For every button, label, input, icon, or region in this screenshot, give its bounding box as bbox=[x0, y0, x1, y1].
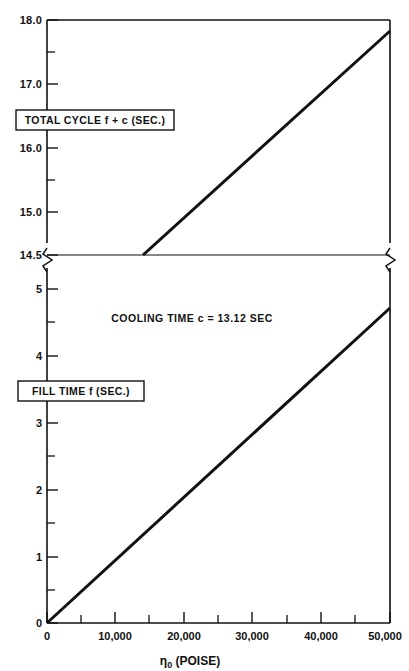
x-axis-title-eta: η bbox=[160, 654, 167, 668]
cooling-time-note: COOLING TIME c = 13.12 SEC bbox=[111, 312, 273, 324]
tick-label-17: 17.0 bbox=[20, 78, 42, 90]
tick-label-2: 2 bbox=[36, 484, 42, 496]
fill-time-axis-label: FILL TIME f (SEC.) bbox=[18, 381, 144, 401]
tick-label-1: 1 bbox=[36, 551, 42, 563]
figure-container: 18.0 17.0 16.0 15.0 14.5 TOTAL CYCLE f +… bbox=[0, 0, 409, 671]
svg-text:η0 (POISE): η0 (POISE) bbox=[160, 654, 220, 670]
total-cycle-panel: 18.0 17.0 16.0 15.0 14.5 TOTAL CYCLE f +… bbox=[16, 14, 390, 261]
fill-time-axis-label-text: FILL TIME f (SEC.) bbox=[32, 385, 130, 397]
fill-time-data-line bbox=[47, 308, 390, 623]
total-cycle-axis-label: TOTAL CYCLE f + c (SEC.) bbox=[16, 110, 174, 130]
axis-break-marks bbox=[43, 248, 395, 272]
tick-label-3: 3 bbox=[36, 417, 42, 429]
xtick-label-50000: 50,000 bbox=[368, 630, 402, 642]
tick-label-16: 16.0 bbox=[20, 142, 42, 154]
tick-label-18: 18.0 bbox=[20, 14, 42, 26]
xtick-label-10000: 10,000 bbox=[98, 630, 132, 642]
tick-label-14p5: 14.5 bbox=[20, 249, 42, 261]
xtick-label-30000: 30,000 bbox=[235, 630, 269, 642]
xtick-label-40000: 40,000 bbox=[304, 630, 338, 642]
tick-label-5: 5 bbox=[36, 283, 42, 295]
tick-label-15: 15.0 bbox=[20, 206, 42, 218]
total-cycle-axis-label-text: TOTAL CYCLE f + c (SEC.) bbox=[25, 114, 166, 126]
total-cycle-data-line bbox=[143, 31, 390, 255]
fill-time-panel: 5 4 3 2 1 0 0 10,000 20,000 30,000 40,0 bbox=[18, 268, 402, 642]
x-axis-title-units: (POISE) bbox=[176, 654, 221, 668]
broken-axis-line-chart: 18.0 17.0 16.0 15.0 14.5 TOTAL CYCLE f +… bbox=[0, 0, 409, 671]
tick-label-4: 4 bbox=[36, 350, 43, 362]
xtick-label-20000: 20,000 bbox=[167, 630, 201, 642]
xtick-label-0: 0 bbox=[44, 630, 50, 642]
tick-label-0-y: 0 bbox=[36, 617, 42, 629]
x-axis-title: η0 (POISE) bbox=[160, 654, 220, 670]
